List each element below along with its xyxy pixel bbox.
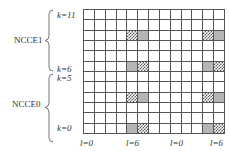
grid-cell-checkered [213,123,225,134]
group-label-ncce1: NCCE1 [14,36,43,45]
l-label-3: l=6 [210,139,223,148]
group-label-ncce0: NCCE0 [12,100,41,109]
brace-ncce0-icon [44,73,54,143]
resource-grid [83,9,224,133]
k-label-bottom-ncce0: k=0 [57,124,72,133]
brace-ncce1-icon [44,9,54,72]
l-label-0: l=0 [80,139,93,148]
k-label-top-ncce1: k=11 [57,11,75,20]
l-label-2: l=0 [170,139,183,148]
l-label-1: l=6 [126,139,139,148]
k-label-top-ncce0: k=5 [57,74,72,83]
